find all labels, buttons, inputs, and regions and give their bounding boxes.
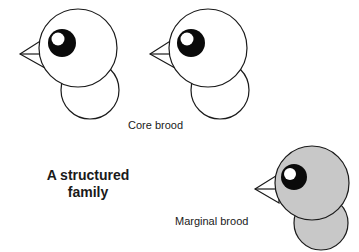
marginal-bird [255,146,349,250]
bird-eye-highlight [284,168,296,180]
bird-eye-highlight [52,33,65,46]
marginal-brood-label: Marginal brood [175,215,248,227]
title-line-2: family [28,184,148,201]
diagram-title: A structured family [28,167,148,201]
core-bird-1 [20,9,119,119]
bird-eye-highlight [181,33,194,46]
core-brood-label: Core brood [128,119,183,131]
title-line-1: A structured [28,167,148,184]
core-bird-2 [150,9,249,119]
